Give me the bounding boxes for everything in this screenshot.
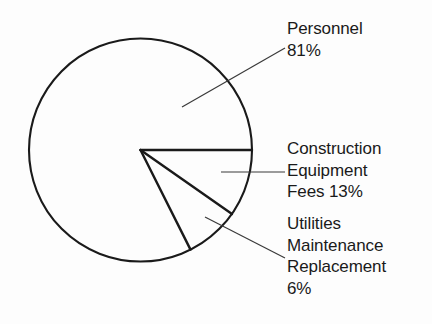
pie-radius-63deg [141,150,191,250]
slice-label-utilities-line2: Maintenance [287,235,386,257]
slice-label-personnel: Personnel 81% [287,18,363,61]
slice-label-construction-line1: Construction [287,138,381,160]
slice-label-construction-line3: Fees 13% [287,181,381,203]
slice-label-construction-line2: Equipment [287,160,381,182]
slice-label-utilities-line1: Utilities [287,213,386,235]
slice-label-construction: Construction Equipment Fees 13% [287,138,381,203]
slice-label-personnel-line2: 81% [287,40,363,62]
leader-line-utilities [205,217,285,258]
slice-label-personnel-line1: Personnel [287,18,363,40]
leader-line-personnel [182,48,285,107]
slice-label-utilities: Utilities Maintenance Replacement 6% [287,213,386,299]
slice-label-utilities-line4: 6% [287,278,386,300]
pie-chart-figure: Personnel 81% Construction Equipment Fee… [0,0,432,324]
slice-label-utilities-line3: Replacement [287,256,386,278]
pie-radius-35deg [141,150,233,214]
